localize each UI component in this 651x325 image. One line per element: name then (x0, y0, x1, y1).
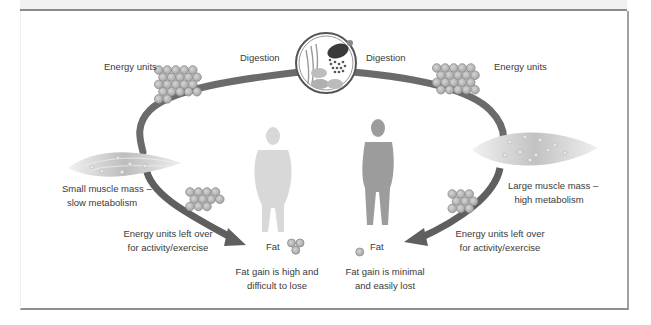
energy-unit-icon (292, 246, 300, 254)
energy-unit-icon (194, 202, 203, 211)
energy-unit-icon (288, 239, 296, 247)
digestion-circle-icon (296, 33, 356, 93)
person-high-fat-figure (255, 127, 292, 232)
energy-unit-icon (445, 85, 454, 94)
energy-unit-icon (462, 85, 471, 94)
large-muscle-label: Large muscle mass – high metabolism (508, 179, 590, 207)
metabolism-diagram (0, 0, 651, 325)
energy-unit-icon (448, 204, 457, 213)
large-muscle-icon (472, 133, 598, 166)
energy-unit-icon (203, 202, 212, 211)
fat-units-left (288, 239, 305, 254)
energy-unit-icon (186, 202, 195, 211)
digestion-label-left: Digestion (240, 51, 280, 65)
energy-unit-icon (356, 248, 364, 256)
leftover-units-cluster-right (448, 190, 478, 213)
energy-unit-icon (471, 85, 480, 94)
energy-unit-icon (163, 95, 172, 104)
energy-units-label-left: Energy units (104, 60, 157, 74)
fat-label-right: Fat (370, 240, 384, 254)
fat-units-right (356, 248, 364, 256)
energy-unit-icon (184, 87, 193, 96)
energy-unit-icon (296, 239, 304, 247)
energy-unit-icon (154, 95, 163, 104)
fat-gain-label-left: Fat gain is high and difficult to lose (234, 265, 320, 293)
person-low-fat-figure (362, 119, 393, 225)
energy-unit-icon (176, 87, 185, 96)
energy-unit-icon (437, 85, 446, 94)
energy-unit-icon (465, 204, 474, 213)
energy-unit-icon (215, 195, 224, 204)
energy-path-right (352, 72, 504, 150)
arrow-right-head (404, 228, 428, 246)
energy-unit-icon (454, 85, 463, 94)
fat-gain-label-right: Fat gain is minimal and easily lost (342, 265, 428, 293)
digestion-label-right: Digestion (366, 51, 406, 65)
small-muscle-label: Small muscle mass – slow metabolism (62, 182, 142, 210)
energy-unit-icon (193, 87, 202, 96)
leftover-units-label-left: Energy units left over for activity/exer… (118, 227, 218, 255)
leftover-units-label-right: Energy units left over for activity/exer… (450, 227, 550, 255)
energy-unit-icon (456, 204, 465, 213)
energy-units-cluster-top-right (432, 64, 479, 94)
arrow-left-head (224, 228, 246, 246)
energy-units-label-right: Energy units (494, 60, 547, 74)
fat-label-left: Fat (266, 240, 280, 254)
small-muscle-icon (68, 152, 182, 176)
leftover-units-cluster-left (186, 188, 224, 211)
